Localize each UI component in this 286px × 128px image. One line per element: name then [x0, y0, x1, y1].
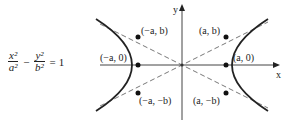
label-a-b: (a, b) — [199, 25, 220, 37]
vertex-right — [224, 63, 229, 68]
label-neg-a-0: (−a, 0) — [100, 52, 127, 64]
hyperbola-diagram: x y (−a, b) (a, b) (−a, 0) (a, 0) (−a, −… — [0, 0, 286, 128]
point-a-b — [224, 35, 229, 40]
asymptote-positive — [100, 22, 268, 106]
origin — [181, 64, 184, 67]
vertex-left — [136, 63, 141, 68]
y-axis-arrow-icon — [179, 4, 185, 11]
label-a-0: (a, 0) — [233, 52, 254, 64]
x-axis-label: x — [276, 69, 281, 80]
label-neg-a-b: (−a, b) — [141, 25, 168, 37]
point-a-neg-b — [224, 91, 229, 96]
x-axis-arrow-icon — [273, 62, 280, 68]
y-axis-label: y — [173, 4, 178, 15]
label-a-neg-b: (a, −b) — [193, 95, 220, 107]
point-neg-a-b — [136, 35, 141, 40]
asymptote-negative — [100, 24, 268, 108]
label-neg-a-neg-b: (−a, −b) — [139, 95, 171, 107]
